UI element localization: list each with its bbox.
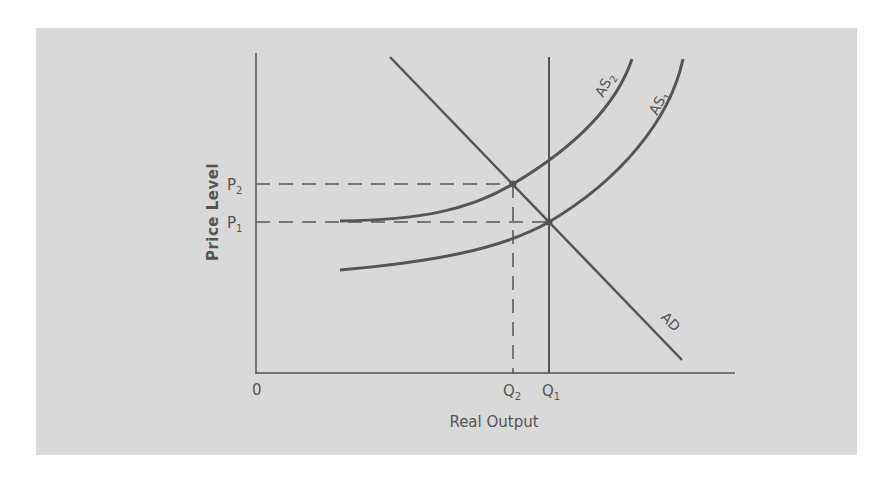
y-axis-label: Price Level	[204, 163, 222, 261]
p1-label: P1	[227, 214, 242, 234]
origin-label: 0	[252, 381, 262, 399]
equilibrium-point-e1	[546, 219, 553, 226]
as2-label: AS2	[592, 70, 620, 101]
x-axis-label: Real Output	[449, 413, 538, 431]
ad-label: AD	[658, 309, 684, 335]
q2-label: Q2	[503, 382, 521, 402]
q1-label: Q1	[542, 382, 560, 402]
as1-curve	[340, 59, 683, 270]
equilibrium-point-e2	[510, 181, 517, 188]
ad-curve	[390, 57, 682, 360]
as-ad-diagram: Price Level P2 P1 0 Q2 Q1 Real Output AS…	[0, 0, 883, 479]
as1-label: AS1	[646, 88, 674, 119]
p2-label: P2	[227, 176, 242, 196]
